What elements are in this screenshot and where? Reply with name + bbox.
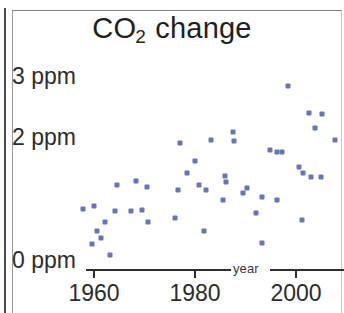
data-point bbox=[172, 216, 177, 221]
data-point bbox=[309, 174, 314, 179]
x-axis-tick-label-1960: 1960 bbox=[68, 280, 119, 307]
x-axis-tick-2000 bbox=[295, 270, 297, 278]
data-point bbox=[274, 198, 279, 203]
scatter-plot-area: 196019802000 bbox=[0, 0, 344, 313]
data-point bbox=[259, 240, 264, 245]
data-point bbox=[133, 179, 138, 184]
data-point bbox=[201, 229, 206, 234]
data-point bbox=[108, 252, 113, 257]
data-point bbox=[220, 198, 225, 203]
data-point bbox=[177, 141, 182, 146]
data-point bbox=[240, 191, 245, 196]
x-axis-tick-label-2000: 2000 bbox=[270, 280, 321, 307]
data-point bbox=[115, 182, 120, 187]
data-point bbox=[89, 241, 94, 246]
data-point bbox=[193, 158, 198, 163]
data-point bbox=[103, 219, 108, 224]
data-point bbox=[197, 182, 202, 187]
x-axis-tick-1960 bbox=[93, 270, 95, 278]
data-point bbox=[333, 138, 338, 143]
data-point bbox=[285, 83, 290, 88]
data-point bbox=[231, 138, 236, 143]
data-point bbox=[245, 185, 250, 190]
data-point bbox=[129, 208, 134, 213]
data-point bbox=[260, 194, 265, 199]
data-point bbox=[223, 179, 228, 184]
data-point bbox=[92, 204, 97, 209]
data-point bbox=[222, 174, 227, 179]
chart-figure: CO2 change 3 ppm 2 ppm 0 ppm year 196019… bbox=[0, 0, 344, 313]
data-point bbox=[204, 188, 209, 193]
x-axis-tick-label-1980: 1980 bbox=[169, 280, 220, 307]
data-point bbox=[145, 185, 150, 190]
data-point bbox=[113, 208, 118, 213]
data-point bbox=[175, 188, 180, 193]
data-point bbox=[146, 219, 151, 224]
data-point bbox=[320, 111, 325, 116]
data-point bbox=[209, 138, 214, 143]
x-axis-tick-1980 bbox=[194, 270, 196, 278]
data-point bbox=[95, 229, 100, 234]
data-point bbox=[267, 147, 272, 152]
data-point bbox=[312, 126, 317, 131]
data-point bbox=[297, 165, 302, 170]
data-point bbox=[139, 207, 144, 212]
data-point bbox=[99, 235, 104, 240]
data-point bbox=[279, 149, 284, 154]
data-point bbox=[230, 130, 235, 135]
data-point bbox=[184, 171, 189, 176]
data-point bbox=[307, 110, 312, 115]
data-point bbox=[319, 174, 324, 179]
data-point bbox=[301, 171, 306, 176]
data-point bbox=[300, 218, 305, 223]
data-point bbox=[80, 207, 85, 212]
data-point bbox=[253, 210, 258, 215]
